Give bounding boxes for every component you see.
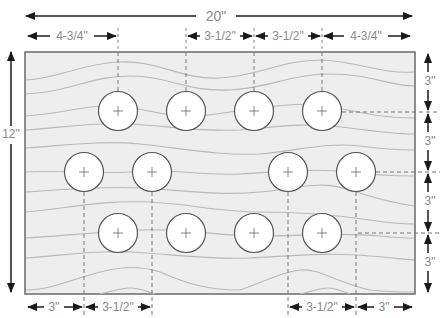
hole-layout-diagram: 20" 4-3/4" 3-1/2" 3-1/2" 4-3/4" 12" [0, 0, 440, 318]
top-dim-4-label: 4-3/4" [350, 29, 382, 43]
right-dim-4-label: 3" [425, 255, 436, 269]
overall-height-dimension: 12" [2, 52, 20, 292]
right-dim-3-label: 3" [425, 194, 436, 208]
bottom-dim-3-label: 3-1/2" [306, 300, 338, 314]
hole [303, 92, 342, 131]
top-dim-3-label: 3-1/2" [272, 29, 304, 43]
bottom-dimensions: 3" 3-1/2" 3-1/2" 3" [28, 300, 412, 314]
bottom-dim-2-label: 3-1/2" [102, 300, 134, 314]
height-label: 12" [2, 127, 20, 141]
hole [235, 92, 274, 131]
overall-width-dimension: 20" [26, 8, 412, 24]
hole [303, 214, 342, 253]
bottom-dim-1-label: 3" [49, 300, 60, 314]
top-dim-1-label: 4-3/4" [56, 29, 88, 43]
top-dim-2-label: 3-1/2" [204, 29, 236, 43]
hole [235, 214, 274, 253]
hole [99, 214, 138, 253]
hole [65, 153, 104, 192]
right-dim-2-label: 3" [425, 134, 436, 148]
right-dim-1-label: 3" [425, 74, 436, 88]
width-label: 20" [206, 8, 227, 24]
right-dimensions: 3" 3" 3" 3" [425, 54, 436, 292]
hole [99, 92, 138, 131]
hole [167, 92, 206, 131]
hole [133, 153, 172, 192]
hole [167, 214, 206, 253]
bottom-dim-4-label: 3" [379, 300, 390, 314]
hole [337, 153, 376, 192]
hole [269, 153, 308, 192]
